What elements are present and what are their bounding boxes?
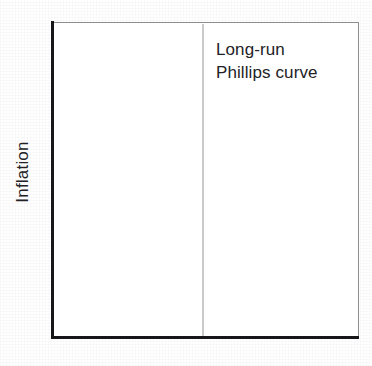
y-axis-title: Inflation (0, 0, 46, 366)
curve-annotation-label: Long-run Phillips curve (216, 38, 318, 84)
curve-annotation-line-2: Phillips curve (216, 61, 318, 84)
axis-left-vertical (51, 21, 54, 339)
curve-annotation-line-1: Long-run (216, 38, 318, 61)
axis-right-border (358, 22, 359, 336)
phillips-curve-figure: Inflation Long-run Phillips curve (0, 0, 372, 366)
long-run-phillips-curve-line (202, 24, 204, 336)
axis-top-border (54, 22, 359, 23)
y-axis-title-label: Inflation (13, 141, 33, 202)
axis-bottom-horizontal (51, 336, 359, 339)
